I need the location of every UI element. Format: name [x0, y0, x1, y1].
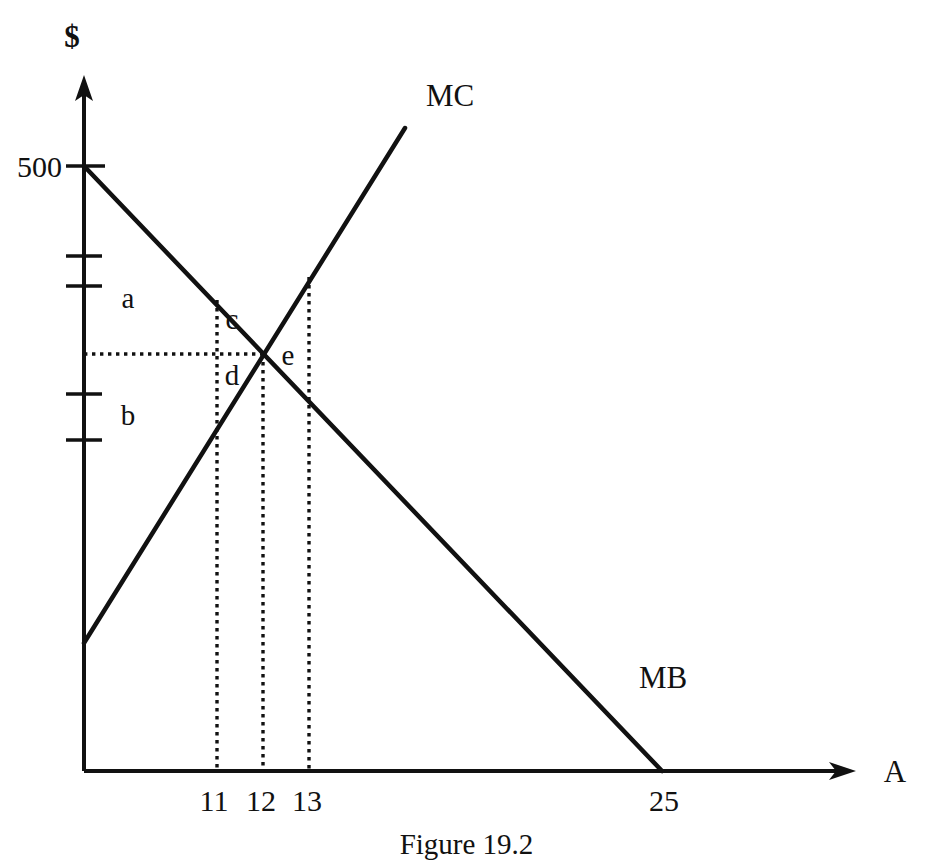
- x-tick-label-12: 12: [246, 784, 276, 817]
- x-tick-label-11: 11: [200, 784, 229, 817]
- x-axis-title: A: [884, 754, 907, 789]
- x-tick-label-25: 25: [649, 784, 679, 817]
- figure-caption: Figure 19.2: [0, 828, 933, 860]
- equilibrium-point-label: e: [282, 339, 295, 371]
- x-tick-label-13: 13: [292, 784, 322, 817]
- reference-lines-group: [84, 277, 309, 771]
- y-tick-label-500: 500: [17, 150, 62, 183]
- area-label-b: b: [121, 399, 136, 431]
- mb-curve-label: MB: [639, 660, 687, 695]
- area-label-a: a: [122, 282, 135, 314]
- area-label-c: c: [226, 303, 239, 335]
- area-label-d: d: [225, 359, 240, 391]
- mc-curve-label: MC: [426, 78, 474, 113]
- y-axis-title: $: [64, 19, 80, 54]
- mc-curve: [84, 128, 405, 643]
- mb-curve: [84, 166, 662, 771]
- curves-group: [84, 128, 662, 771]
- axes-group: [75, 75, 856, 780]
